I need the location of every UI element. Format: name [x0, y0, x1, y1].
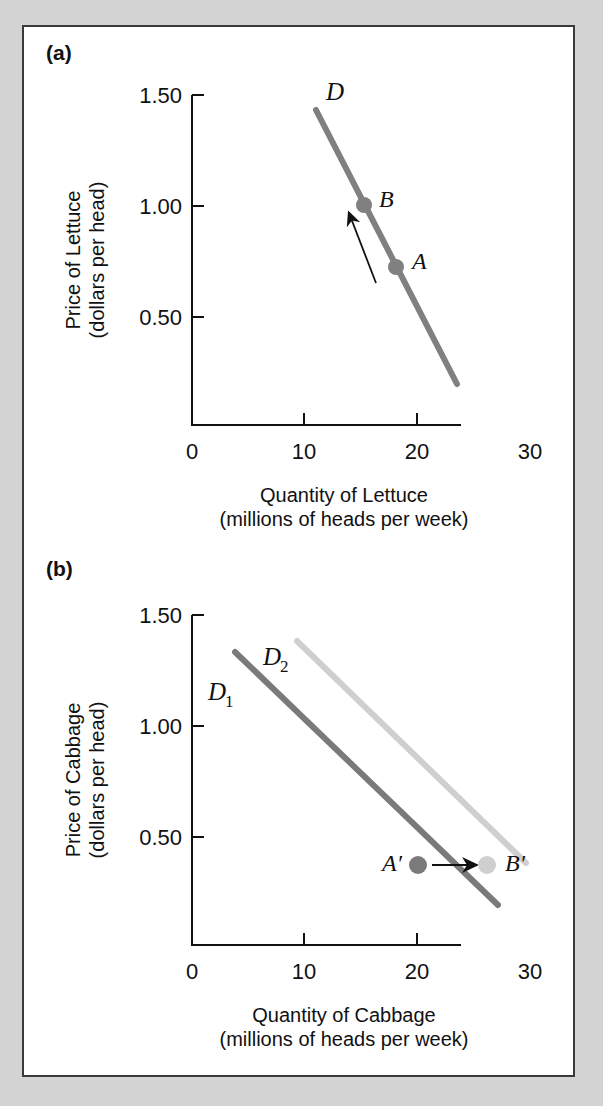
curve-label-d: D: [325, 78, 344, 105]
x-axis-title-line2-a: (millions of heads per week): [220, 508, 469, 530]
y-axis-title-line1-a: Price of Lettuce: [62, 191, 84, 330]
point-a-prime-marker: [409, 856, 427, 874]
y-tick-label-150-b: 1.50: [139, 603, 182, 628]
chart-b: 1.50 1.00 0.50 0 10 20 30 Price of Cabba…: [24, 547, 577, 1079]
y-tick-label-100-b: 1.00: [139, 714, 182, 739]
x-tick-label-0-a: 0: [186, 439, 198, 464]
panel-a: (a) 1.50 1.00 0.50 0 10 20 30 Price of L…: [24, 27, 573, 547]
y-tick-label-100-a: 1.00: [139, 194, 182, 219]
x-tick-label-10-a: 10: [292, 439, 316, 464]
figure-frame: (a) 1.50 1.00 0.50 0 10 20 30 Price of L…: [22, 25, 575, 1077]
x-tick-label-10-b: 10: [292, 959, 316, 984]
x-tick-label-30-a: 30: [518, 439, 542, 464]
curve-label-d2: D: [262, 643, 281, 670]
curve-label-d1: D: [207, 678, 226, 705]
y-tick-label-150-a: 1.50: [139, 83, 182, 108]
demand-curve-d2: [297, 641, 526, 863]
x-tick-label-20-b: 20: [405, 959, 429, 984]
x-axis-title-line2-b: (millions of heads per week): [220, 1028, 469, 1050]
chart-a: 1.50 1.00 0.50 0 10 20 30 Price of Lettu…: [24, 27, 577, 547]
curve-label-d2-subscript: 2: [280, 657, 289, 676]
demand-curve-d1: [235, 652, 498, 905]
point-b-prime-marker: [478, 856, 496, 874]
point-label-b-prime: B′: [505, 850, 526, 876]
point-a-marker: [388, 259, 404, 275]
y-axis-title-line2-b: (dollars per head): [86, 702, 108, 859]
x-tick-label-20-a: 20: [405, 439, 429, 464]
y-axis-title-line2-a: (dollars per head): [86, 182, 108, 339]
x-axis-title-line1-b: Quantity of Cabbage: [252, 1004, 435, 1026]
curve-label-d1-subscript: 1: [225, 692, 234, 711]
y-tick-label-050-b: 0.50: [139, 825, 182, 850]
x-axis-title-line1-a: Quantity of Lettuce: [260, 484, 428, 506]
x-tick-label-30-b: 30: [518, 959, 542, 984]
point-label-a: A: [410, 248, 427, 274]
panel-b: (b) 1.50 1.00 0.50 0 10 20 30 Price of C…: [24, 547, 573, 1079]
point-b-marker: [356, 197, 372, 213]
demand-curve-d: [316, 110, 457, 384]
y-tick-label-050-a: 0.50: [139, 305, 182, 330]
point-label-a-prime: A′: [380, 850, 403, 876]
point-label-b: B: [379, 186, 394, 212]
x-tick-label-0-b: 0: [186, 959, 198, 984]
y-axis-title-line1-b: Price of Cabbage: [62, 703, 84, 858]
